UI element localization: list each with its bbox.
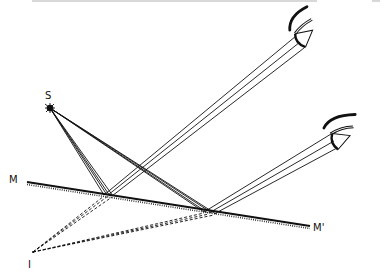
incident-rays-1	[50, 108, 113, 196]
diagram-canvas	[0, 0, 384, 279]
eye-upper-icon	[283, 6, 326, 49]
optics-diagram: S M M' I	[0, 0, 384, 279]
label-image: I	[28, 260, 31, 270]
reflected-rays-upper	[104, 36, 304, 196]
virtual-rays-2	[33, 213, 214, 252]
clipped-page-number	[372, 0, 384, 3]
eye-lower-icon	[322, 111, 364, 151]
image-point	[32, 251, 34, 253]
label-source: S	[45, 91, 51, 101]
label-mirror-left: M	[9, 175, 18, 185]
clipped-header-text	[30, 0, 320, 3]
reflected-rays-lower	[204, 134, 337, 214]
label-mirror-right: M'	[313, 223, 324, 233]
mirror	[27, 182, 310, 229]
